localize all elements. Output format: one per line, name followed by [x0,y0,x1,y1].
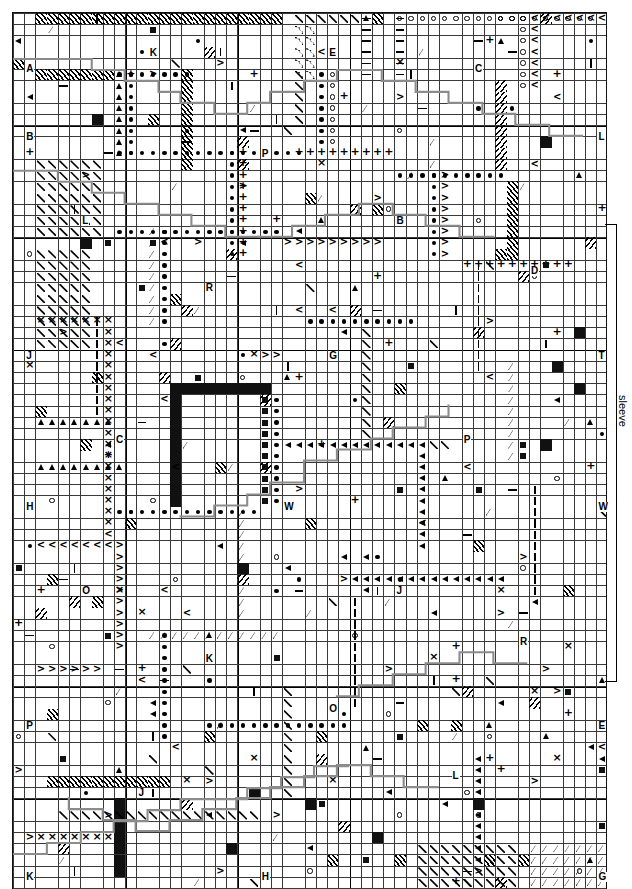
pattern-cell [237,159,248,170]
pattern-cell [462,686,473,697]
pattern-cell [529,776,540,787]
pattern-cell [35,159,46,170]
pattern-cell [47,462,58,473]
pattern-cell [114,563,125,574]
pattern-cell [204,765,215,776]
pattern-cell [237,383,248,394]
pattern-cell [103,832,114,843]
pattern-cell [13,731,24,742]
pattern-cell [473,271,484,282]
pattern-cell [417,439,428,450]
pattern-cell [350,608,361,619]
pattern-cell [327,237,338,248]
pattern-cell [552,686,563,697]
pattern-cell [193,13,204,24]
pattern-cell [226,159,237,170]
pattern-cell [125,776,136,787]
pattern-cell [193,148,204,159]
pattern-cell [428,136,439,147]
pattern-cell [35,215,46,226]
pattern-cell [47,664,58,675]
pattern-cell [159,338,170,349]
pattern-cell [249,383,260,394]
pattern-cell [125,148,136,159]
pattern-cell [271,215,282,226]
pattern-cell [305,35,316,46]
pattern-cell [361,47,372,58]
pattern-cell [58,282,69,293]
pattern-cell [92,596,103,607]
pattern-cell [439,439,450,450]
pattern-cell [80,316,91,327]
pattern-cell [24,92,35,103]
pattern-cell [69,462,80,473]
pattern-cell [282,720,293,731]
pattern-cell [80,69,91,80]
pattern-cell [316,47,327,58]
pattern-cell [462,843,473,854]
pattern-cell [260,13,271,24]
pattern-cell [148,787,159,798]
pattern-cell [103,13,114,24]
pattern-cell [69,226,80,237]
pattern-cell [484,13,495,24]
pattern-cell [495,585,506,596]
pattern-grid[interactable]: AKECBLPLBDRJGTCPHWWOJKRPOEJLKHGMSBONJCLT… [12,12,607,889]
pattern-cell [215,720,226,731]
pattern-cell [204,226,215,237]
pattern-cell [495,877,506,888]
pattern-cell [159,394,170,405]
pattern-cell [170,406,181,417]
pattern-cell [585,58,596,69]
pattern-cell [361,855,372,866]
pattern-cell [428,843,439,854]
pattern-cell [316,92,327,103]
pattern-cell [596,754,607,765]
pattern-cell [361,148,372,159]
pattern-cell [563,686,574,697]
pattern-cell [92,159,103,170]
pattern-cell [226,170,237,181]
pattern-cell [47,305,58,316]
pattern-cell [484,170,495,181]
pattern-cell [181,776,192,787]
pattern-cell [260,473,271,484]
pattern-cell [428,866,439,877]
pattern-cell [529,159,540,170]
pattern-cell [439,798,450,809]
pattern-cell [428,215,439,226]
pattern-cell [327,80,338,91]
pattern-cell [552,843,563,854]
pattern-cell [159,641,170,652]
pattern-cell [237,237,248,248]
pattern-cell [103,630,114,641]
pattern-cell [518,451,529,462]
pattern-cell [80,664,91,675]
pattern-cell [159,226,170,237]
pattern-cell [249,810,260,821]
pattern-cell [148,13,159,24]
pattern-cell [552,877,563,888]
pattern-cell [170,148,181,159]
pattern-cell [69,776,80,787]
pattern-cell [170,473,181,484]
pattern-cell [114,596,125,607]
pattern-cell [136,13,147,24]
pattern-cell [417,518,428,529]
pattern-cell [58,338,69,349]
pattern-cell [136,664,147,675]
pattern-cell [103,428,114,439]
pattern-cell [170,226,181,237]
pattern-cell [80,776,91,787]
pattern-cell [125,226,136,237]
pattern-cell [249,754,260,765]
pattern-cell [596,204,607,215]
pattern-cell [394,69,405,80]
pattern-cell [125,518,136,529]
pattern-cell [417,170,428,181]
pattern-cell [518,552,529,563]
pattern-cell [327,136,338,147]
pattern-cell [170,451,181,462]
pattern-cell [529,697,540,708]
pattern-cell [159,294,170,305]
